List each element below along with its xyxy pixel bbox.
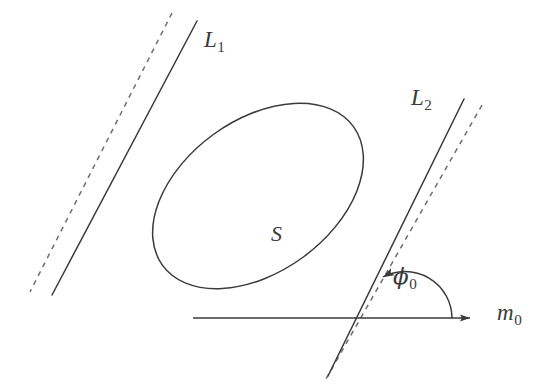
label-angle-phi0-subscript: 0 <box>409 275 417 292</box>
region-S-ellipse <box>118 65 398 327</box>
line-L1-parallel-dashed <box>30 13 172 292</box>
diagram-svg <box>0 0 553 392</box>
label-line-L1: L1 <box>204 28 225 54</box>
label-line-L1-subscript: 1 <box>217 38 225 55</box>
label-line-L2-subscript: 2 <box>424 96 432 113</box>
label-axis-m0: m0 <box>497 301 522 327</box>
label-region-S-base: S <box>271 221 282 246</box>
diagram-canvas: L1 L2 S m0 ϕ0 <box>0 0 553 392</box>
line-L1 <box>52 21 197 295</box>
label-angle-phi0-base: ϕ <box>393 263 409 289</box>
label-region-S: S <box>271 223 282 245</box>
label-line-L1-base: L <box>204 27 217 52</box>
label-axis-m0-subscript: 0 <box>514 311 522 328</box>
label-line-L2-base: L <box>411 85 424 110</box>
line-L2 <box>328 99 464 376</box>
label-line-L2: L2 <box>411 86 432 112</box>
label-angle-phi0: ϕ0 <box>393 265 417 291</box>
line-L2-parallel-dashed <box>326 105 482 379</box>
label-axis-m0-base: m <box>497 300 514 325</box>
